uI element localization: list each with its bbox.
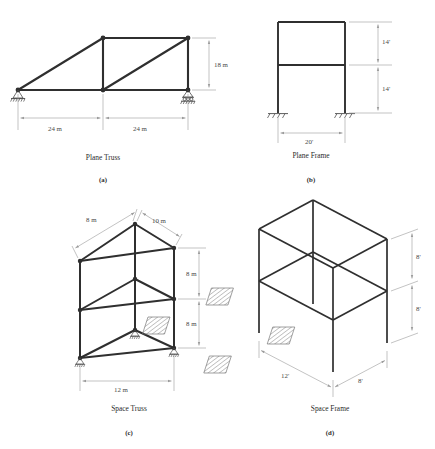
dimension-label-span-left: 24 m — [48, 125, 63, 132]
dimension-level-heights — [178, 248, 206, 348]
fixed-support-icon-left — [268, 114, 289, 118]
dimension-label-bay-length: 12' — [281, 372, 289, 379]
roof-edge-back-left — [259, 200, 313, 229]
space-truss-joints — [78, 222, 176, 360]
space-frame-members — [259, 200, 387, 372]
dimension-height-18m — [192, 38, 216, 90]
joint — [101, 36, 106, 41]
dimension-label-truss-height: 18 m — [214, 61, 229, 68]
figure-canvas: 18 m 24 m 24 m Plane Truss (a) — [0, 0, 435, 449]
member-top-back — [80, 248, 174, 261]
sublabel-b: (b) — [307, 176, 315, 184]
fixed-support-icon-right — [335, 114, 356, 118]
panel-plane-frame: 14' 14' 20' Plane Frame (b) — [268, 22, 393, 184]
joint — [172, 297, 176, 301]
mid-edge-back-right — [313, 252, 387, 291]
dimension-label-upper-story: 14' — [382, 38, 390, 45]
member-top-right — [135, 224, 174, 248]
dimension-label-bay-width: 20' — [305, 138, 313, 145]
sublabel-d: (d) — [326, 429, 334, 437]
dimension-story-heights — [349, 22, 392, 113]
dimension-label-top-left-member: 8 m — [86, 216, 97, 223]
joint — [78, 259, 82, 263]
dimension-label-lower-story-frame: 8' — [416, 305, 421, 312]
joint — [172, 246, 176, 250]
dimension-spans — [18, 94, 188, 130]
panel-space-truss: 8 m 10 m 8 m 8 m 12 m Space Truss (c) — [72, 209, 206, 437]
panel-plane-truss: 18 m 24 m 24 m Plane Truss (a) — [11, 36, 229, 184]
dimension-plan-edges — [259, 341, 387, 397]
joint — [133, 222, 137, 226]
mid-edge-front-left — [259, 281, 333, 320]
member-bottom-back — [80, 348, 174, 358]
dimension-story-heights-frame — [391, 229, 418, 343]
fixed-support-icon-front — [204, 356, 232, 373]
member-mid-right — [135, 279, 174, 299]
mid-edge-back-left — [259, 252, 313, 281]
dimension-label-upper-level: 8 m — [186, 270, 197, 277]
dimension-label-upper-story-frame: 8' — [416, 253, 421, 260]
plane-truss-members — [18, 38, 188, 90]
joint — [133, 277, 137, 281]
mid-edge-front-right — [333, 291, 387, 320]
caption-space-truss: Space Truss — [111, 404, 147, 413]
member-left-diagonal — [18, 38, 103, 90]
fixed-support-icon-right — [267, 327, 295, 344]
caption-space-frame: Space Frame — [311, 404, 350, 413]
roof-edge-front-left — [259, 229, 333, 268]
dimension-label-lower-story: 14' — [382, 85, 390, 92]
sublabel-a: (a) — [99, 176, 107, 184]
roof-edge-back-right — [313, 200, 387, 239]
joint — [101, 88, 106, 93]
dimension-label-span-right: 24 m — [133, 125, 148, 132]
fixed-support-icon-back — [206, 288, 234, 305]
fixed-support-icon-left — [142, 317, 170, 334]
roof-edge-front-right — [333, 239, 387, 268]
caption-plane-truss: Plane Truss — [86, 153, 120, 162]
plane-frame-members — [278, 22, 345, 113]
dimension-label-bay-width-frame: 8' — [358, 377, 363, 384]
dimension-label-lower-level: 8 m — [186, 320, 197, 327]
member-mid-back — [80, 299, 174, 310]
sublabel-c: (c) — [125, 429, 133, 437]
member-right-diagonal — [103, 38, 188, 90]
panel-space-frame: 8' 8' 12' 8' Space Frame (d) — [142, 200, 420, 437]
caption-plane-frame: Plane Frame — [292, 151, 330, 160]
dimension-label-top-right-member: 10 m — [152, 217, 167, 224]
space-truss-members — [80, 224, 174, 358]
dimension-label-base-width: 12 m — [114, 386, 129, 393]
joint — [78, 308, 82, 312]
joint — [186, 36, 191, 41]
